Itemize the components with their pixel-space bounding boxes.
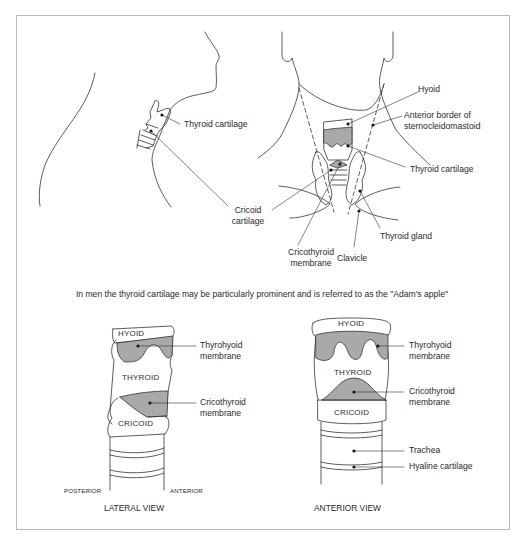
anterior-part-cricoid: CRICOID [334, 407, 369, 418]
lateral-label-thyrohyoid-2: membrane [200, 351, 241, 362]
anterior-label-thyrohyoid-1: Thyrohyoid [409, 340, 452, 351]
lateral-anterior-label: ANTERIOR [170, 485, 203, 496]
label-thyroid-gland: Thyroid gland [380, 231, 432, 242]
anterior-label-hyaline: Hyaline cartilage [409, 461, 473, 472]
lateral-label-cricothyroid-1: Cricothyroid [200, 397, 246, 408]
lateral-part-hyoid: HYOID [118, 328, 144, 339]
figure-caption: In men the thyroid cartilage may be part… [0, 289, 524, 299]
anterior-view-drawing [312, 318, 404, 484]
label-hyoid: Hyoid [418, 84, 440, 95]
anterior-label-cricothyroid-1: Cricothyroid [409, 386, 455, 397]
anterior-label-thyrohyoid-2: membrane [409, 351, 450, 362]
anterior-part-thyroid: THYROID [334, 367, 371, 378]
label-anterior-border-1: Anterior border of [404, 110, 471, 121]
label-cricothyroid-1: Cricothyroid [286, 247, 336, 258]
front-neck-drawing [258, 32, 430, 247]
label-cricoid-1: Cricoid [228, 205, 268, 216]
anterior-label-cricothyroid-2: membrane [409, 397, 450, 408]
anterior-view-title: ANTERIOR VIEW [314, 503, 381, 514]
lateral-part-thyroid: THYROID [122, 372, 159, 383]
anterior-part-hyoid: HYOID [338, 318, 364, 329]
label-cricoid-2: cartilage [225, 216, 271, 227]
label-cricothyroid-2: membrane [286, 258, 336, 269]
label-clavicle: Clavicle [337, 253, 367, 264]
label-thyroid-cartilage-front: Thyroid cartilage [410, 164, 474, 175]
label-anterior-border-2: sternocleidomastoid [404, 121, 480, 132]
lateral-part-cricoid: CRICOID [118, 418, 153, 429]
anterior-label-trachea: Trachea [409, 445, 440, 456]
lateral-posterior-label: POSTERIOR [64, 485, 101, 496]
label-thyroid-cartilage-side: Thyroid cartilage [184, 119, 248, 130]
lateral-view-title: LATERAL VIEW [104, 503, 164, 514]
lateral-label-cricothyroid-2: membrane [200, 408, 241, 419]
lateral-view-drawing [108, 326, 196, 490]
lateral-label-thyrohyoid-1: Thyrohyoid [200, 340, 243, 351]
